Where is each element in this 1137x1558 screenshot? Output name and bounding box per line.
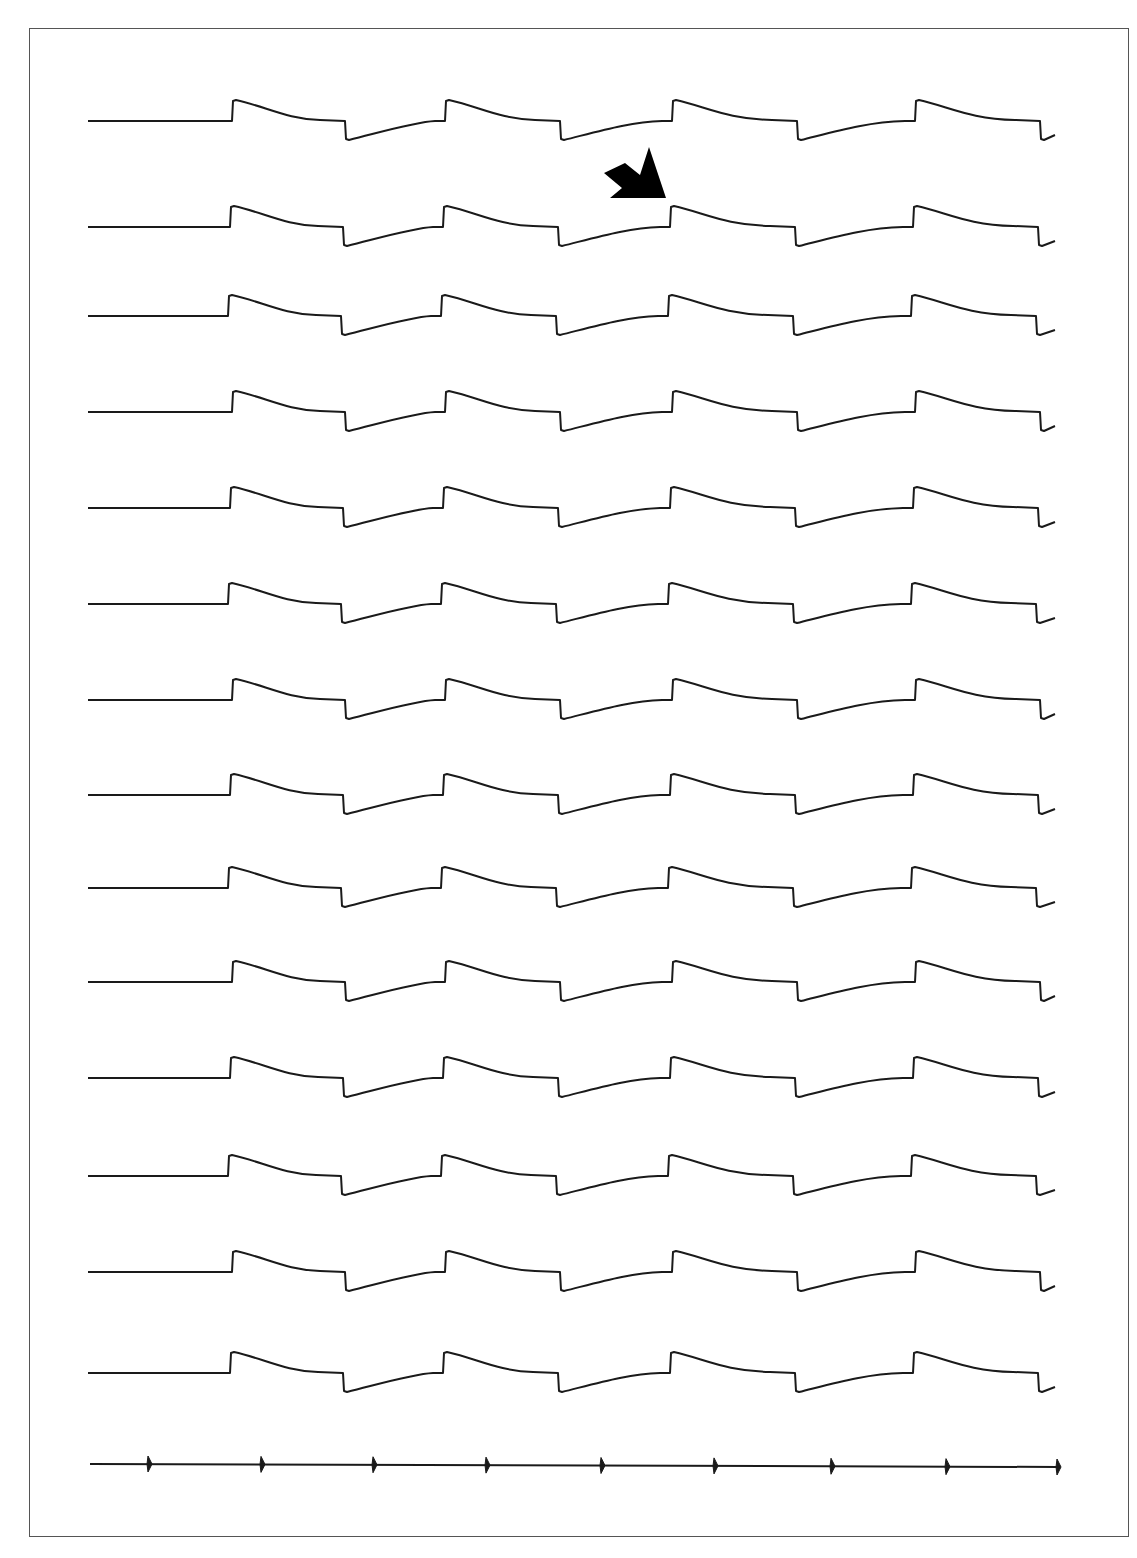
time-tick-icon <box>713 1458 718 1474</box>
time-tick-icon <box>1056 1459 1061 1475</box>
time-tick-icon <box>485 1457 490 1473</box>
time-tick-icon <box>600 1458 605 1474</box>
time-tick-icon <box>830 1458 835 1474</box>
waveform-trace <box>88 774 1055 814</box>
waveform-traces <box>88 100 1055 1392</box>
waveform-trace <box>88 100 1055 140</box>
waveform-figure <box>0 0 1137 1558</box>
waveform-trace <box>88 1352 1055 1392</box>
arrow-marker-icon <box>604 147 666 198</box>
time-marker-line <box>90 1456 1061 1475</box>
time-axis-line <box>90 1464 1058 1467</box>
waveform-trace <box>88 487 1055 527</box>
waveform-trace <box>88 1155 1055 1195</box>
waveform-trace <box>88 206 1055 246</box>
waveform-trace <box>88 679 1055 719</box>
waveform-trace <box>88 961 1055 1001</box>
waveform-trace <box>88 867 1055 907</box>
arrow-icon <box>604 147 666 198</box>
waveform-trace <box>88 1251 1055 1291</box>
time-tick-icon <box>260 1456 265 1472</box>
waveform-trace <box>88 1057 1055 1097</box>
waveform-trace <box>88 295 1055 335</box>
waveform-trace <box>88 391 1055 431</box>
time-tick-icon <box>372 1457 377 1473</box>
waveform-trace <box>88 583 1055 623</box>
time-tick-icon <box>147 1456 152 1472</box>
time-tick-icon <box>945 1459 950 1475</box>
